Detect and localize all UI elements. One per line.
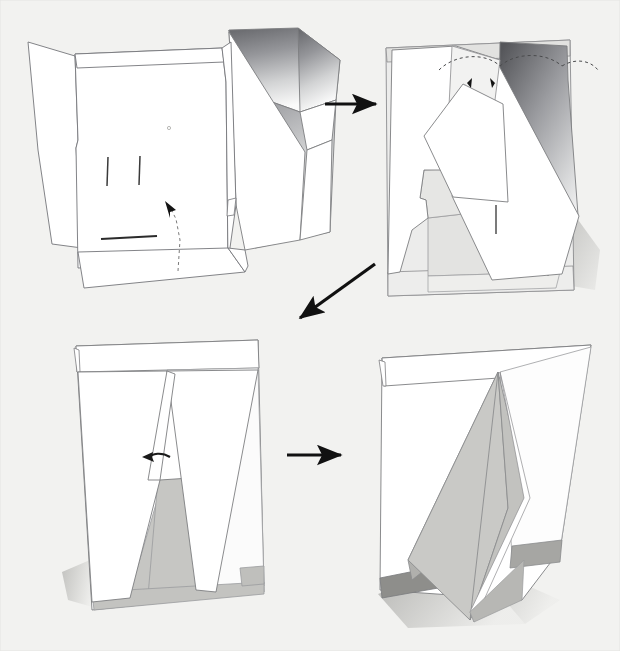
panel-2-step2 [386, 40, 600, 296]
diagram-canvas: Paper folding instruction diagram Step 1… [0, 0, 620, 651]
panel1-front-face [75, 48, 228, 268]
figure-title-text: Paper folding instruction diagram [4, 5, 77, 11]
panel-2-label: Step 2 — central flap pushed through, ca… [4, 21, 129, 27]
panel1-cut-slit-left [107, 157, 108, 186]
panel-3-label: Step 3 — card standing, inner V visible [4, 29, 90, 35]
panel3-right-foot-shadow [240, 566, 264, 586]
panel3-top-band [76, 340, 259, 372]
panel1-cut-slit-right [139, 156, 140, 185]
panel-4-label: Step 4 — finished pop-up form [4, 37, 72, 43]
folding-diagram-svg: Paper folding instruction diagram Step 1… [0, 0, 620, 651]
panel-1-label: Step 1 — open card with cut slits marked [4, 13, 95, 19]
panel-3-step3 [62, 340, 264, 610]
